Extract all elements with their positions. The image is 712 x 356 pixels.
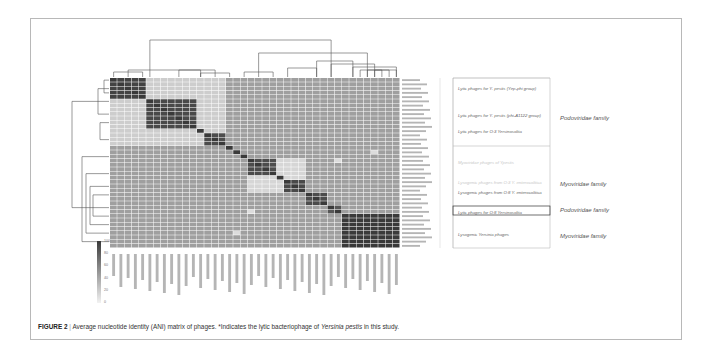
heatmap-cell — [226, 78, 233, 82]
heatmap-cell — [183, 193, 190, 197]
heatmap-cell — [270, 240, 277, 244]
column-label — [359, 254, 362, 290]
heatmap-cell — [233, 99, 240, 103]
heatmap-cell — [139, 197, 146, 201]
heatmap-cell — [349, 180, 356, 184]
heatmap-cell — [378, 82, 385, 86]
heatmap-cell — [183, 125, 190, 129]
heatmap-cell — [226, 210, 233, 214]
heatmap-cell — [125, 133, 132, 137]
heatmap-cell — [335, 95, 342, 99]
heatmap-cell — [357, 95, 364, 99]
heatmap-cell — [168, 121, 175, 125]
heatmap-cell — [335, 99, 342, 103]
heatmap-cell — [117, 227, 124, 231]
heatmap-cell — [139, 214, 146, 218]
heatmap-cell — [117, 235, 124, 239]
heatmap-cell — [320, 206, 327, 210]
heatmap-cell — [349, 87, 356, 91]
heatmap-cell — [313, 201, 320, 205]
heatmap-cell — [320, 184, 327, 188]
heatmap-cell — [262, 150, 269, 154]
column-label — [177, 254, 180, 295]
heatmap-cell — [233, 95, 240, 99]
heatmap-cell — [226, 159, 233, 163]
heatmap-cell — [175, 104, 182, 108]
heatmap-cell — [393, 87, 400, 91]
heatmap-cell — [233, 210, 240, 214]
heatmap-cell — [277, 163, 284, 167]
heatmap-cell — [277, 197, 284, 201]
heatmap-cell — [190, 129, 197, 133]
heatmap-cell — [371, 176, 378, 180]
heatmap-cell — [161, 201, 168, 205]
heatmap-cell — [132, 116, 139, 120]
heatmap-cell — [342, 121, 349, 125]
heatmap-cell — [364, 214, 371, 218]
heatmap-cell — [125, 150, 132, 154]
heatmap-cell — [378, 121, 385, 125]
heatmap-cell — [262, 184, 269, 188]
heatmap-cell — [139, 201, 146, 205]
heatmap-cell — [277, 82, 284, 86]
heatmap-cell — [342, 99, 349, 103]
heatmap-cell — [270, 176, 277, 180]
heatmap-cell — [241, 95, 248, 99]
column-label — [257, 254, 260, 276]
heatmap-cell — [262, 125, 269, 129]
heatmap-cell — [386, 112, 393, 116]
heatmap-cell — [204, 218, 211, 222]
heatmap-cell — [284, 142, 291, 146]
heatmap-cell — [241, 210, 248, 214]
heatmap-cell — [168, 214, 175, 218]
heatmap-cell — [393, 112, 400, 116]
heatmap-cell — [277, 210, 284, 214]
heatmap-cell — [132, 146, 139, 150]
heatmap-cell — [371, 167, 378, 171]
heatmap-cell — [371, 91, 378, 95]
heatmap-cell — [349, 227, 356, 231]
row-label — [402, 181, 432, 183]
column-label — [170, 254, 173, 284]
heatmap-cell — [386, 82, 393, 86]
heatmap-cell — [125, 206, 132, 210]
heatmap-cell — [125, 155, 132, 159]
heatmap-cell — [342, 189, 349, 193]
heatmap-cell — [277, 214, 284, 218]
heatmap-cell — [270, 125, 277, 129]
heatmap-cell — [320, 210, 327, 214]
heatmap-cell — [204, 78, 211, 82]
heatmap-cell — [306, 231, 313, 235]
heatmap-cell — [204, 142, 211, 146]
heatmap-cell — [357, 108, 364, 112]
heatmap-cell — [183, 108, 190, 112]
heatmap-cell — [335, 112, 342, 116]
heatmap-cell — [364, 240, 371, 244]
heatmap-cell — [291, 193, 298, 197]
heatmap-cell — [248, 227, 255, 231]
heatmap-cell — [255, 129, 262, 133]
heatmap-cell — [320, 138, 327, 142]
column-label — [380, 254, 383, 283]
heatmap-cell — [255, 133, 262, 137]
heatmap-cell — [255, 172, 262, 176]
heatmap-cell — [320, 91, 327, 95]
heatmap-cell — [204, 240, 211, 244]
heatmap-cell — [371, 138, 378, 142]
heatmap-cell — [233, 244, 240, 248]
heatmap-cell — [255, 95, 262, 99]
heatmap-cell — [320, 231, 327, 235]
heatmap-cell — [226, 189, 233, 193]
heatmap-cell — [190, 223, 197, 227]
heatmap-cell — [335, 91, 342, 95]
heatmap-cell — [284, 125, 291, 129]
heatmap-cell — [233, 108, 240, 112]
heatmap-cell — [313, 176, 320, 180]
heatmap-cell — [349, 167, 356, 171]
heatmap-cell — [270, 163, 277, 167]
heatmap-cell — [284, 78, 291, 82]
heatmap-cell — [335, 87, 342, 91]
heatmap-cell — [197, 78, 204, 82]
heatmap-cell — [183, 201, 190, 205]
column-label — [206, 254, 209, 279]
